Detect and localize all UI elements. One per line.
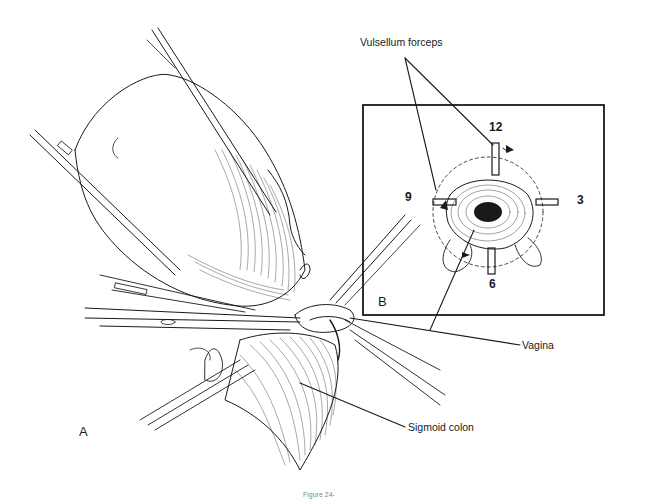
illustration-artwork [0, 0, 656, 500]
clock-3: 3 [577, 194, 584, 206]
label-vagina: Vagina [522, 340, 554, 351]
clock-9: 9 [405, 191, 412, 203]
clock-6: 6 [489, 278, 496, 290]
surgical-illustration: Vulsellum forceps Vagina Sigmoid colon 1… [0, 0, 656, 500]
clock-12: 12 [489, 121, 502, 133]
figure-caption: Figure 24- [303, 491, 335, 498]
label-vulsellum-forceps: Vulsellum forceps [360, 37, 442, 48]
label-sigmoid-colon: Sigmoid colon [408, 422, 474, 433]
panel-label-a: A [79, 425, 88, 438]
panel-label-b: B [378, 295, 387, 308]
